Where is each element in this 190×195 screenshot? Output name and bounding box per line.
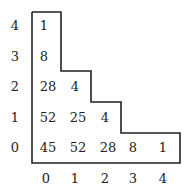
- cell: 52: [63, 141, 93, 155]
- cell: 8: [29, 50, 59, 64]
- x-label: 4: [148, 172, 178, 186]
- y-label: 4: [0, 19, 30, 33]
- cell: 28: [33, 80, 63, 94]
- y-label: 0: [0, 141, 30, 155]
- cell: 4: [90, 111, 120, 125]
- x-label: 2: [90, 172, 120, 186]
- y-label: 1: [0, 111, 30, 125]
- cell: 8: [118, 141, 148, 155]
- y-label: 3: [0, 50, 30, 64]
- cell: 1: [148, 141, 178, 155]
- x-label: 1: [60, 172, 90, 186]
- cell: 45: [33, 141, 63, 155]
- x-label: 3: [118, 172, 148, 186]
- y-label: 2: [0, 80, 30, 94]
- cell: 25: [63, 111, 93, 125]
- cell: 4: [60, 80, 90, 94]
- cell: 52: [33, 111, 63, 125]
- x-label: 0: [31, 172, 61, 186]
- cell: 1: [29, 19, 59, 33]
